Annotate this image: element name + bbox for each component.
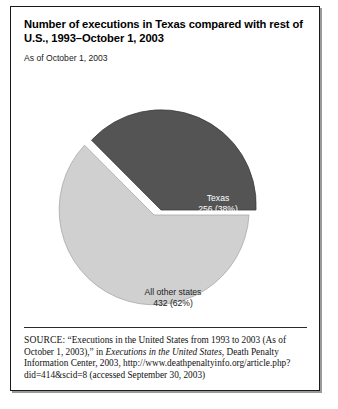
source-publication-title: Executions in the United States [106,347,222,357]
pie-chart-svg [11,65,318,319]
figure-frame: Number of executions in Texas compared w… [10,6,320,391]
pie-chart: Texas 256 (38%) All other states 432 (62… [11,65,318,319]
chart-subtitle: As of October 1, 2003 [24,53,306,64]
source-divider [24,327,307,328]
source-note: SOURCE: “Executions in the United States… [24,334,309,382]
page-title: Number of executions in Texas compared w… [24,18,306,45]
source-label: SOURCE: [24,334,65,345]
chart-header: Number of executions in Texas compared w… [11,7,319,64]
